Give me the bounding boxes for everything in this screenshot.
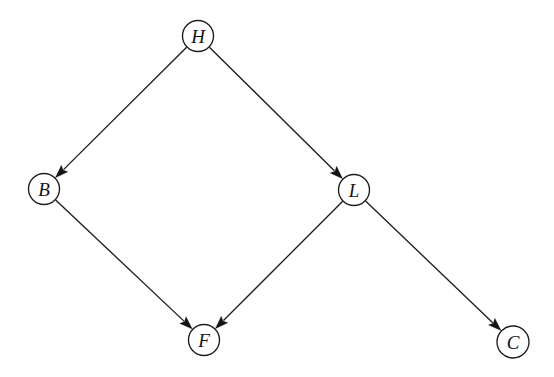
edge-h-to-l bbox=[209, 47, 342, 179]
directed-graph-canvas: HBLFC bbox=[0, 0, 554, 377]
node-b[interactable]: B bbox=[29, 174, 60, 205]
node-h[interactable]: H bbox=[183, 21, 214, 52]
edge-h-to-b bbox=[55, 47, 186, 177]
graph-figure: HBLFC bbox=[0, 0, 554, 377]
edge-b-to-f bbox=[56, 200, 193, 329]
edge-line bbox=[366, 201, 493, 323]
node-f[interactable]: F bbox=[189, 325, 220, 356]
node-label: B bbox=[38, 179, 50, 200]
edges-layer bbox=[55, 47, 501, 330]
node-label: C bbox=[507, 332, 520, 353]
edge-line bbox=[64, 47, 187, 169]
node-label: F bbox=[197, 330, 210, 351]
edge-l-to-f bbox=[215, 201, 342, 328]
edge-line bbox=[209, 47, 334, 170]
edge-l-to-c bbox=[366, 201, 502, 331]
edge-line bbox=[223, 201, 342, 320]
nodes-layer: HBLFC bbox=[29, 21, 530, 359]
node-l[interactable]: L bbox=[339, 175, 370, 206]
node-label: L bbox=[348, 180, 360, 201]
edge-line bbox=[56, 200, 184, 321]
node-c[interactable]: C bbox=[497, 326, 529, 358]
node-label: H bbox=[190, 26, 206, 47]
